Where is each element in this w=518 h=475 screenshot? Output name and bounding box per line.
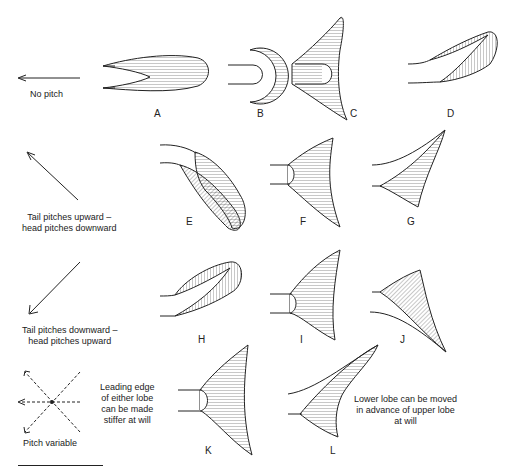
note-left-line: Leading edge bbox=[100, 382, 155, 393]
fin-a-icon bbox=[103, 56, 209, 91]
fin-h-icon bbox=[160, 262, 242, 316]
fin-k-icon bbox=[178, 345, 252, 455]
fin-i-icon bbox=[270, 250, 340, 340]
caption-pitch-variable: Pitch variable bbox=[23, 438, 77, 449]
caption-tail-down-line1: Tail pitches downward – bbox=[22, 325, 118, 336]
panel-label-b: B bbox=[257, 108, 264, 119]
caption-tail-down-line2: head pitches upward bbox=[22, 336, 118, 347]
fin-d-icon bbox=[408, 32, 497, 83]
panel-label-h: H bbox=[198, 334, 205, 345]
caption-tail-up: Tail pitches upward – head pitches downw… bbox=[22, 212, 117, 234]
panel-label-c: C bbox=[350, 108, 357, 119]
note-right-line: at will bbox=[354, 416, 457, 427]
fin-j-icon bbox=[370, 270, 446, 352]
panel-label-j: J bbox=[400, 334, 405, 345]
arrow-up-left-icon bbox=[27, 152, 78, 200]
note-left-line: can be made bbox=[100, 404, 155, 415]
caption-tail-down: Tail pitches downward – head pitches upw… bbox=[22, 325, 118, 347]
panel-label-l: L bbox=[330, 445, 336, 456]
arrow-no-pitch-icon bbox=[18, 75, 80, 81]
note-leading-edge: Leading edge of either lobe can be made … bbox=[100, 382, 155, 426]
note-left-line: of either lobe bbox=[100, 393, 155, 404]
note-lower-lobe: Lower lobe can be moved in advance of up… bbox=[354, 394, 457, 427]
arrow-down-left-icon bbox=[29, 262, 80, 314]
panel-label-e: E bbox=[186, 216, 193, 227]
panel-label-a: A bbox=[154, 108, 161, 119]
note-right-line: in advance of upper lobe bbox=[354, 405, 457, 416]
note-left-line: stiffer at will bbox=[100, 415, 155, 426]
fin-b-icon bbox=[228, 48, 288, 104]
panel-label-g: G bbox=[407, 216, 415, 227]
panel-label-k: K bbox=[205, 445, 212, 456]
fin-c-icon bbox=[292, 17, 352, 120]
note-right-line: Lower lobe can be moved bbox=[354, 394, 457, 405]
panel-label-d: D bbox=[447, 108, 454, 119]
panel-label-i: I bbox=[300, 334, 303, 345]
fin-g-icon bbox=[372, 130, 445, 207]
fin-f-icon bbox=[270, 138, 340, 227]
caption-tail-up-line1: Tail pitches upward – bbox=[22, 212, 117, 223]
caption-no-pitch: No pitch bbox=[30, 89, 63, 100]
panel-label-f: F bbox=[300, 216, 306, 227]
caption-tail-up-line2: head pitches downward bbox=[22, 223, 117, 234]
fin-e-icon bbox=[160, 145, 245, 230]
footnote-rule bbox=[18, 465, 103, 466]
